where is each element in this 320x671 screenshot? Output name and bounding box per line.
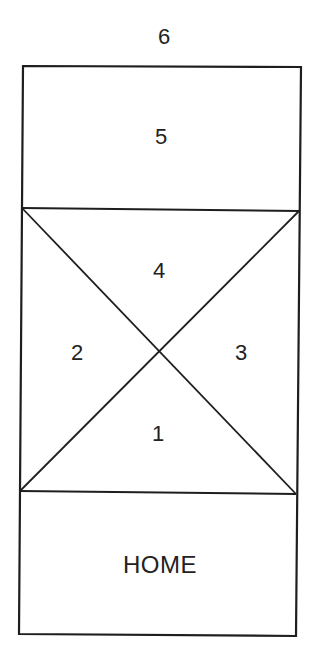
zone-label-2: 2	[71, 342, 83, 364]
zone-label-4: 4	[153, 260, 165, 282]
zone-label-6: 6	[158, 26, 170, 48]
top-divider-line	[22, 208, 299, 211]
diagonal-line-tr-bl	[20, 211, 299, 491]
zone-label-5: 5	[155, 126, 167, 148]
zone-label-home: HOME	[123, 553, 197, 577]
bottom-divider-line	[20, 491, 296, 494]
zone-label-1: 1	[152, 423, 164, 445]
zone-label-3: 3	[235, 342, 247, 364]
